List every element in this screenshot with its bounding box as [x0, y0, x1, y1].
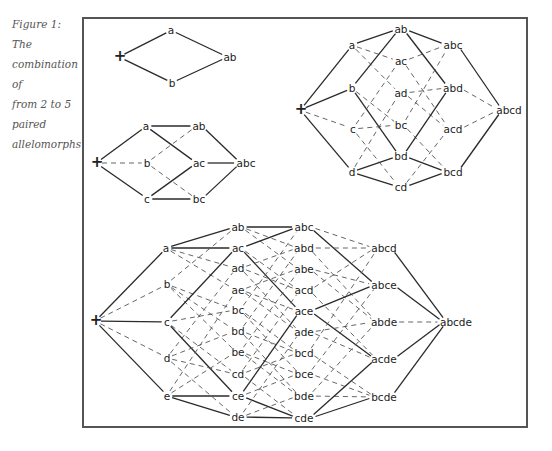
genotype-node: acd	[444, 123, 463, 135]
solid-edge	[355, 93, 396, 151]
four-allele-diagram: +abcdabacadbcbdcdabcabdacdbcdabcd	[295, 23, 522, 193]
origin-node: +	[91, 153, 104, 171]
genotype-node: ac	[232, 242, 244, 254]
solid-edge	[124, 33, 166, 54]
solid-edge	[409, 31, 441, 43]
genotype-node: ab	[223, 51, 236, 63]
dashed-edge	[246, 250, 292, 267]
dashed-edge	[170, 295, 233, 391]
genotype-node: a	[143, 120, 149, 132]
genotype-node: de	[231, 411, 244, 423]
genotype-node: b	[144, 157, 151, 169]
solid-edge	[246, 398, 293, 416]
solid-edge	[461, 50, 499, 106]
genotype-node: bc	[232, 304, 245, 316]
genotype-node: cd	[395, 181, 407, 193]
dashed-edge	[410, 89, 442, 93]
genotype-node: b	[169, 77, 176, 89]
genotype-node: abe	[294, 263, 314, 275]
two-allele-diagram: +abab	[114, 24, 237, 89]
solid-edge	[150, 129, 192, 159]
dashed-edge	[246, 292, 293, 309]
three-allele-diagram: +abcabacbcabc	[91, 120, 256, 205]
dashed-edge	[171, 326, 231, 371]
dashed-edge	[315, 376, 369, 396]
solid-edge	[409, 174, 441, 186]
dashed-edge	[100, 287, 162, 318]
genotype-node: ab	[231, 221, 244, 233]
genotype-node: abc	[444, 39, 463, 51]
genotype-node: abce	[371, 279, 396, 291]
genotype-node: abd	[443, 82, 463, 94]
dashed-edge	[311, 253, 375, 348]
genotype-node: bce	[295, 368, 314, 380]
genotype-node: ad	[394, 87, 407, 99]
five-allele-diagram: +abcdeabacadaebcbdbecdcedeabcabdabeacdac…	[90, 221, 472, 424]
dashed-edge	[316, 396, 369, 397]
genotype-node: ae	[232, 284, 245, 296]
genotype-node: c	[164, 316, 170, 328]
genotype-node: abc	[237, 157, 256, 169]
origin-node: +	[114, 47, 127, 65]
genotype-node: abcd	[371, 242, 397, 254]
dashed-edge	[171, 231, 231, 280]
solid-edge	[99, 325, 163, 391]
genotype-node: b	[349, 82, 356, 94]
genotype-node: ab	[192, 120, 205, 132]
genotype-node: bd	[231, 325, 244, 337]
genotype-node: bd	[394, 150, 407, 162]
solid-edge	[316, 399, 370, 417]
genotype-node: bcd	[443, 166, 462, 178]
solid-edge	[461, 115, 499, 168]
genotype-node: c	[144, 193, 150, 205]
solid-edge	[172, 398, 230, 416]
solid-edge	[101, 130, 142, 160]
dashed-edge	[406, 66, 446, 124]
dashed-edge	[243, 337, 296, 413]
dashed-edge	[358, 126, 392, 129]
dashed-edge	[172, 311, 229, 321]
genotype-node: be	[231, 346, 244, 358]
genotype-node: abd	[294, 242, 314, 254]
genotype-node: acde	[371, 353, 396, 365]
dashed-edge	[243, 274, 296, 348]
genotype-node: cd	[232, 368, 244, 380]
dashed-edge	[357, 47, 393, 59]
solid-edge	[206, 167, 237, 196]
dashed-edge	[312, 290, 374, 370]
genotype-node: cde	[295, 412, 314, 424]
solid-edge	[151, 166, 192, 195]
dashed-edge	[464, 112, 494, 127]
dashed-edge	[356, 49, 395, 89]
dashed-edge	[172, 286, 230, 308]
solid-edge	[357, 158, 393, 170]
genotype-node: bc	[395, 119, 408, 131]
genotype-node: bc	[193, 193, 206, 205]
allelomorph-combination-diagrams: +abab+abcabacbcabc+abcdabacadbcbdcdabcab…	[0, 0, 552, 451]
genotype-node: ade	[294, 326, 314, 338]
solid-edge	[247, 417, 293, 418]
solid-edge	[357, 174, 393, 185]
solid-edge	[406, 93, 446, 151]
dashed-edge	[408, 96, 443, 125]
genotype-node: abcd	[496, 104, 522, 116]
solid-edge	[206, 130, 237, 160]
dashed-edge	[316, 229, 370, 247]
genotype-node: ac	[193, 157, 205, 169]
genotype-node: abc	[295, 221, 314, 233]
solid-edge	[246, 229, 293, 246]
genotype-node: abcde	[440, 316, 472, 328]
dashed-edge	[314, 272, 371, 318]
genotype-node: ace	[295, 305, 314, 317]
solid-edge	[304, 115, 348, 168]
dashed-edge	[315, 334, 369, 357]
dashed-edge	[244, 272, 295, 328]
genotype-node: acd	[295, 284, 314, 296]
dashed-edge	[100, 324, 162, 355]
solid-edge	[407, 34, 445, 84]
origin-node: +	[90, 311, 103, 329]
genotype-node: abde	[371, 316, 397, 328]
dashed-edge	[243, 232, 296, 306]
genotype-node: bcd	[294, 347, 313, 359]
solid-edge	[395, 326, 444, 392]
